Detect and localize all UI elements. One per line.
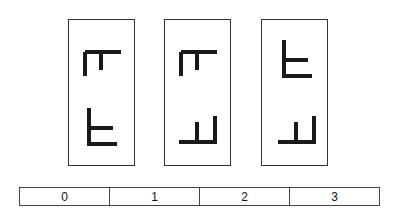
f-shape-mirror-bottom-icon (177, 116, 219, 146)
scale-cell-1[interactable]: 1 (110, 188, 200, 205)
stimulus-card-1 (68, 19, 135, 166)
f-shape-bottom-icon (87, 108, 123, 148)
f-shape-top-icon (282, 40, 314, 80)
stimulus-card-2 (164, 19, 231, 166)
scale-cell-2[interactable]: 2 (200, 188, 290, 205)
scale-label: 2 (241, 190, 248, 204)
stimulus-card-3 (261, 19, 328, 166)
f-shape-mirror-bottom-icon (276, 116, 318, 146)
f-shape-top-icon (83, 50, 123, 78)
scale-label: 1 (151, 190, 158, 204)
scale-label: 3 (331, 190, 338, 204)
scale-cell-0[interactable]: 0 (20, 188, 110, 205)
scale-label: 0 (61, 190, 68, 204)
f-shape-top-icon (179, 50, 219, 78)
scale-cell-3[interactable]: 3 (290, 188, 379, 205)
response-scale: 0 1 2 3 (19, 187, 380, 206)
